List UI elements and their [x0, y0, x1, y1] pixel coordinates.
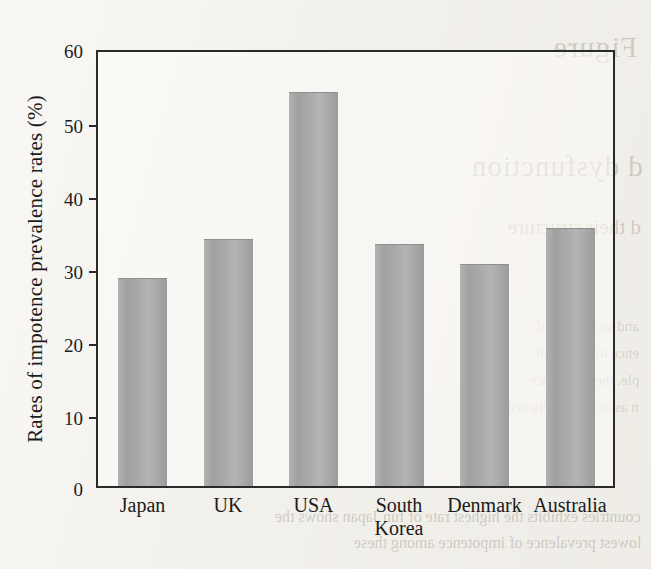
- bar: [289, 92, 338, 486]
- bar: [460, 264, 509, 486]
- y-axis-tick-label: 0: [74, 480, 84, 499]
- y-axis-tick: 40: [89, 198, 98, 200]
- y-axis-title: Rates of impotence prevalence rates (%): [22, 50, 48, 488]
- bar: [375, 244, 424, 486]
- y-axis-tick-label: 50: [64, 117, 83, 136]
- y-axis-tick-label: 20: [64, 336, 83, 355]
- y-axis-tick: 30: [89, 271, 98, 273]
- y-axis-tick: 50: [89, 125, 98, 127]
- bar: [118, 278, 167, 486]
- x-axis-category-label: Australia: [518, 494, 623, 517]
- plot-area: 0102030405060: [96, 50, 615, 488]
- bar: [204, 239, 253, 486]
- y-axis-tick-label: 40: [64, 190, 83, 209]
- bar-chart: Rates of impotence prevalence rates (%) …: [0, 0, 651, 569]
- y-axis-tick-label: 30: [64, 263, 83, 282]
- y-axis-tick: 20: [89, 344, 98, 346]
- y-axis-tick: 10: [89, 417, 98, 419]
- bar: [546, 228, 595, 486]
- y-axis-tick-label: 10: [64, 409, 83, 428]
- y-axis-tick-label: 60: [64, 42, 83, 61]
